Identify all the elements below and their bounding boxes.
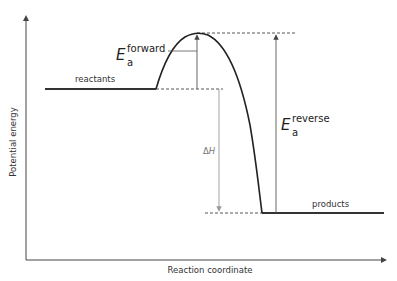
reaction-curve	[156, 33, 262, 213]
y-axis-label: Potential energy	[8, 107, 18, 177]
ea-reverse-superscript: reverse	[292, 113, 330, 124]
reactants-label: reactants	[75, 74, 116, 84]
h-symbol: H	[209, 146, 216, 156]
x-axis-label: Reaction coordinate	[168, 265, 253, 275]
ea-forward-label: E a forward	[116, 43, 165, 68]
products-label: products	[312, 199, 350, 209]
ea-forward-superscript: forward	[127, 43, 165, 54]
ea-reverse-subscript: a	[292, 127, 298, 138]
ea-reverse-symbol: E	[281, 116, 291, 134]
ea-forward-symbol: E	[116, 46, 126, 64]
ea-reverse-label: E a reverse	[281, 113, 330, 138]
ea-forward-subscript: a	[127, 57, 133, 68]
delta-h-label: ΔH	[203, 146, 216, 156]
energy-diagram: reactants products E a forward E a rever…	[0, 0, 397, 281]
diagram-canvas: reactants products E a forward E a rever…	[0, 0, 397, 281]
